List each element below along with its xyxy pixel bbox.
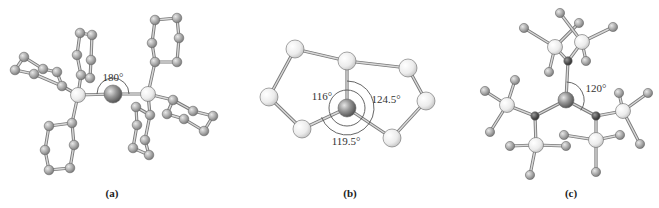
silicon-atom-c-Si3 (500, 98, 515, 113)
methyl-atom-c-Si6-0 (559, 130, 568, 139)
metal-atom-a (104, 85, 122, 103)
angle-label-a-180: 180° (103, 71, 124, 83)
carbon-atom-a-3-2 (150, 15, 160, 25)
carbon-atom-a-2-2 (65, 163, 75, 173)
methyl-atom-c-Si3-0 (480, 86, 489, 95)
methyl-atom-c-Si4-1 (561, 141, 570, 150)
figure: 180° 116° 124.5° 119.5° 120° (a) (b) (c) (0, 0, 659, 208)
phosphorus-atom-a-1 (141, 87, 156, 102)
carbon-atom-a-0-0 (76, 70, 86, 80)
methyl-atom-c-Si2-1 (608, 22, 617, 31)
carbon-atom-a-1-4 (10, 65, 20, 75)
panel-label-a: (a) (106, 187, 119, 200)
panel-label-b: (b) (343, 187, 357, 200)
ring-atom-b-tl (286, 40, 304, 58)
nitrogen-atom-c-N3 (592, 112, 600, 120)
metal-atom-b (338, 99, 356, 117)
ring-atom-b-l (260, 88, 278, 106)
ring-atom-b-br (383, 129, 401, 147)
carbon-atom-a-3-1 (147, 38, 157, 48)
carbon-atom-a-4-4 (179, 114, 189, 124)
methyl-atom-c-Si1-2 (544, 67, 553, 76)
carbon-atom-a-2-4 (40, 145, 50, 155)
carbon-atom-a-5-5 (131, 102, 141, 112)
carbon-atom-a-1-3 (19, 52, 29, 62)
carbon-atom-a-4-2 (208, 111, 218, 121)
carbon-atom-a-1-5 (29, 69, 39, 79)
carbon-atom-a-2-1 (69, 140, 79, 150)
angle-label-b-119-5: 119.5° (332, 135, 361, 147)
carbon-atom-a-4-1 (188, 106, 198, 116)
methyl-atom-c-Si5-2 (635, 139, 644, 148)
methyl-atom-c-Si6-1 (615, 130, 624, 139)
silicon-atom-c-Si4 (529, 138, 544, 153)
carbon-atom-a-5-4 (132, 120, 142, 130)
carbon-atom-a-3-3 (172, 13, 182, 23)
angle-label-c-120: 120° (586, 82, 607, 94)
carbon-atom-a-0-1 (72, 50, 82, 60)
methyl-atom-c-Si6-2 (591, 167, 600, 176)
labels-layer: 180° 116° 124.5° 119.5° 120° (a) (b) (c) (103, 71, 607, 200)
methyl-atom-c-Si3-2 (485, 127, 494, 136)
ring-atom-b-tr (399, 59, 417, 77)
methyl-atom-c-Si2-2 (581, 56, 590, 65)
panel-label-c: (c) (565, 187, 578, 200)
angle-label-b-116: 116° (312, 90, 333, 102)
carbon-atom-a-4-5 (162, 109, 172, 119)
carbon-atom-a-5-3 (128, 143, 138, 153)
carbon-atom-a-3-4 (174, 33, 184, 43)
ring-atom-b-r (417, 92, 435, 110)
phosphorus-atom-a-0 (71, 88, 86, 103)
silicon-atom-c-Si1 (548, 40, 563, 55)
carbon-atom-a-2-0 (67, 118, 77, 128)
methyl-atom-c-Si4-0 (505, 141, 514, 150)
nitrogen-atom-c-N1 (564, 57, 572, 65)
carbon-atom-a-0-3 (87, 30, 97, 40)
carbon-atom-a-0-4 (86, 55, 96, 65)
carbon-atom-a-5-0 (145, 110, 155, 120)
carbon-atom-a-5-1 (140, 135, 150, 145)
carbon-atom-a-3-5 (172, 57, 182, 67)
angle-label-b-124-5: 124.5° (371, 93, 400, 105)
methyl-atom-c-Si1-0 (519, 23, 528, 32)
methyl-atom-c-Si5-1 (643, 88, 652, 97)
methyl-atom-c-Si5-0 (614, 88, 623, 97)
silicon-atom-c-Si6 (589, 133, 604, 148)
carbon-atom-a-1-1 (52, 67, 62, 77)
carbon-atom-a-4-3 (199, 126, 209, 136)
metal-atom-c (558, 92, 574, 108)
carbon-atom-a-2-5 (44, 121, 54, 131)
carbon-atom-a-1-2 (38, 64, 48, 74)
carbon-atom-a-3-0 (150, 57, 160, 67)
carbon-atom-a-0-5 (85, 73, 95, 83)
methyl-atom-c-Si2-0 (555, 8, 564, 17)
carbon-atom-a-1-0 (57, 81, 67, 91)
ring-atom-b-bl (293, 120, 311, 138)
methyl-atom-c-Si1-1 (574, 18, 583, 27)
methyl-atom-c-Si3-1 (510, 75, 519, 84)
carbon-atom-a-2-3 (44, 165, 54, 175)
methyl-atom-c-Si4-2 (525, 170, 534, 179)
carbon-atom-a-0-2 (75, 28, 85, 38)
carbon-atom-a-5-2 (144, 150, 154, 160)
molecular-structures-canvas: 180° 116° 124.5° 119.5° 120° (a) (b) (c) (0, 0, 659, 208)
silicon-atom-c-Si5 (616, 104, 631, 119)
ring-atom-b-tc (338, 52, 356, 70)
silicon-atom-c-Si2 (575, 35, 590, 50)
carbon-atom-a-4-0 (168, 95, 178, 105)
nitrogen-atom-c-N2 (531, 112, 539, 120)
